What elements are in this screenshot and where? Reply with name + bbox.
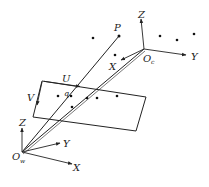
label-camera-x: X (108, 61, 117, 72)
label-v: V (27, 92, 36, 103)
camera-z-axis (141, 19, 144, 49)
label-p: P (113, 22, 121, 33)
label-u: U (62, 73, 71, 84)
image-point (96, 97, 99, 100)
image-plane (33, 81, 146, 131)
image-point-q (70, 95, 73, 98)
label-camera-origin: O (143, 53, 151, 64)
label-world-origin: O (12, 151, 20, 162)
ray-world-to-camera (22, 49, 144, 152)
v-axis-arrow (37, 82, 42, 105)
label-camera-y: Y (191, 51, 199, 62)
image-point (71, 106, 74, 109)
scene-point (193, 33, 196, 36)
projection-diagram: P q U V Z Y X O c Z Y X O w (0, 0, 209, 187)
scene-point (176, 39, 179, 42)
scene-point (159, 35, 162, 38)
scene-point (92, 37, 95, 40)
ray-world-to-camera-2 (23, 51, 145, 154)
scene-point (114, 54, 117, 57)
label-q: q (64, 89, 69, 98)
world-x-axis (22, 152, 72, 164)
label-world-origin-sub: w (20, 157, 26, 164)
ray-world-to-p (22, 36, 119, 152)
label-camera-z: Z (137, 9, 146, 20)
label-world-y: Y (63, 138, 71, 149)
label-camera-origin-sub: c (151, 58, 155, 65)
image-point (57, 95, 60, 98)
image-point (116, 95, 119, 98)
point-p (118, 35, 121, 38)
image-point (86, 97, 89, 100)
label-world-x: X (72, 162, 81, 173)
label-world-z: Z (18, 117, 27, 128)
